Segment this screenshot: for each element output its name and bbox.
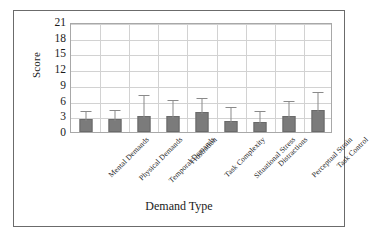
error-bar-stem	[85, 111, 86, 121]
x-axis-tick-labels: Mental DemandsPhysical DemandsTemporal D…	[70, 135, 332, 197]
error-bar-cap	[109, 110, 120, 111]
error-bar-cap	[284, 101, 295, 102]
error-bar-stem	[289, 101, 290, 118]
error-bar-cap	[226, 107, 237, 108]
y-axis-tick-labels: 036912151821	[40, 23, 66, 133]
error-bar-stem	[318, 92, 319, 112]
x-axis-tick-label: Frustration	[188, 135, 219, 166]
bar-group	[217, 24, 246, 132]
error-bar-stem	[114, 110, 115, 121]
bar-group	[275, 24, 304, 132]
y-axis-tick-label: 18	[55, 33, 67, 45]
bar	[137, 116, 150, 132]
error-bar-cap	[196, 98, 207, 99]
chart-figure: Score 036912151821 Mental DemandsPhysica…	[13, 10, 345, 227]
y-axis-tick-label: 15	[55, 49, 67, 61]
y-axis-tick-label: 12	[55, 64, 67, 76]
bar-group	[129, 24, 158, 132]
y-axis-tick-label: 6	[60, 96, 66, 108]
error-bar-cap	[167, 100, 178, 101]
bar-group	[246, 24, 275, 132]
error-bar-cap	[80, 111, 91, 112]
bar-group	[187, 24, 216, 132]
bar	[195, 112, 208, 132]
error-bar-stem	[201, 98, 202, 114]
error-bar-stem	[172, 100, 173, 118]
error-bar-cap	[138, 95, 149, 96]
bar	[166, 116, 179, 132]
plot-area	[70, 23, 332, 133]
bar-group	[100, 24, 129, 132]
y-axis-tick-label: 0	[60, 127, 66, 139]
bar-group	[158, 24, 187, 132]
y-axis-tick-label: 21	[55, 17, 67, 29]
bar-group	[71, 24, 100, 132]
y-axis-tick-label: 9	[60, 80, 66, 92]
error-bar-cap	[255, 111, 266, 112]
x-axis-title: Demand Type	[14, 199, 344, 214]
bar	[312, 110, 325, 132]
error-bar-cap	[313, 92, 324, 93]
bar	[283, 116, 296, 132]
error-bar-stem	[143, 95, 144, 118]
y-axis-tick-label: 3	[60, 112, 66, 124]
error-bar-stem	[260, 111, 261, 124]
bar-group	[304, 24, 333, 132]
error-bar-stem	[231, 107, 232, 123]
